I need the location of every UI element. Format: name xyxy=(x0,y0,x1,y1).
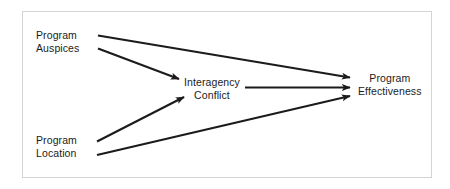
edge-location-to-conflict xyxy=(97,97,184,142)
node-interagency-conflict-line1: Interagency xyxy=(184,76,240,89)
node-program-auspices-line1: Program xyxy=(36,29,79,42)
node-program-auspices: Program Auspices xyxy=(36,29,79,55)
node-program-location-line1: Program xyxy=(36,134,77,147)
edge-auspices-to-effectiveness xyxy=(98,36,350,78)
edge-location-to-effectiveness xyxy=(97,96,350,155)
node-program-effectiveness-line2: Effectiveness xyxy=(358,85,422,98)
diagram-canvas: Program Auspices Program Location Intera… xyxy=(0,0,450,189)
node-program-location: Program Location xyxy=(36,134,77,160)
node-program-location-line2: Location xyxy=(36,147,77,160)
edge-auspices-to-conflict xyxy=(98,49,179,80)
node-program-effectiveness: Program Effectiveness xyxy=(358,72,422,98)
node-program-auspices-line2: Auspices xyxy=(36,42,79,55)
node-program-effectiveness-line1: Program xyxy=(358,72,422,85)
node-interagency-conflict-line2: Conflict xyxy=(184,89,240,102)
node-interagency-conflict: Interagency Conflict xyxy=(184,76,240,102)
